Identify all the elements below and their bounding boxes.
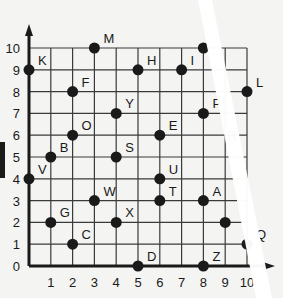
y-tick-label: 4 bbox=[13, 172, 20, 187]
coordinate-grid-diagram: 01234567891012345678910KMFYOBSVWGXCDHILP… bbox=[0, 0, 283, 298]
x-tick-label: 8 bbox=[200, 275, 207, 290]
data-point bbox=[198, 261, 209, 272]
data-point bbox=[133, 261, 144, 272]
y-tick-label: 1 bbox=[13, 237, 20, 252]
point-label: X bbox=[125, 205, 134, 220]
point-label: V bbox=[38, 162, 47, 177]
data-point bbox=[24, 64, 35, 75]
y-tick-label: 6 bbox=[13, 128, 20, 143]
grid-plot: 01234567891012345678910KMFYOBSVWGXCDHILP… bbox=[0, 0, 283, 298]
point-label: E bbox=[169, 118, 178, 133]
data-point bbox=[24, 173, 35, 184]
data-point bbox=[67, 239, 78, 250]
point-label: W bbox=[103, 184, 116, 199]
point-label: K bbox=[38, 53, 47, 68]
data-point bbox=[154, 173, 165, 184]
y-tick-label: 0 bbox=[13, 259, 20, 274]
point-label: I bbox=[191, 53, 195, 68]
x-tick-label: 1 bbox=[47, 275, 54, 290]
y-tick-label: 5 bbox=[13, 150, 20, 165]
y-axis-arrow-icon bbox=[25, 24, 33, 36]
point-label: D bbox=[147, 249, 156, 264]
y-tick-label: 3 bbox=[13, 194, 20, 209]
y-tick-label: 10 bbox=[6, 41, 20, 56]
point-label: B bbox=[60, 140, 69, 155]
data-point bbox=[111, 108, 122, 119]
y-tick-label: 9 bbox=[13, 63, 20, 78]
point-label: L bbox=[256, 75, 263, 90]
x-tick-label: 7 bbox=[178, 275, 185, 290]
point-label: G bbox=[60, 205, 70, 220]
point-label: U bbox=[169, 162, 178, 177]
data-point bbox=[176, 64, 187, 75]
data-point bbox=[242, 86, 253, 97]
data-point bbox=[89, 195, 100, 206]
point-label: T bbox=[169, 184, 177, 199]
data-point bbox=[220, 217, 231, 228]
data-point bbox=[154, 195, 165, 206]
x-tick-label: 2 bbox=[69, 275, 76, 290]
x-tick-label: 9 bbox=[222, 275, 229, 290]
data-point bbox=[154, 130, 165, 141]
point-label: Z bbox=[212, 249, 220, 264]
data-point bbox=[111, 152, 122, 163]
point-label: O bbox=[82, 118, 92, 133]
page-edge-marker bbox=[0, 142, 5, 178]
data-point bbox=[111, 217, 122, 228]
y-tick-label: 7 bbox=[13, 106, 20, 121]
data-point bbox=[133, 64, 144, 75]
point-label: C bbox=[82, 227, 91, 242]
data-point bbox=[198, 108, 209, 119]
data-point bbox=[45, 152, 56, 163]
data-point bbox=[67, 130, 78, 141]
y-tick-label: 8 bbox=[13, 85, 20, 100]
point-label: M bbox=[103, 31, 114, 46]
data-point bbox=[198, 195, 209, 206]
point-label: H bbox=[147, 53, 156, 68]
paper-strip-overlay bbox=[198, 0, 272, 298]
point-label: F bbox=[82, 75, 90, 90]
x-tick-label: 6 bbox=[156, 275, 163, 290]
x-tick-label: 4 bbox=[113, 275, 120, 290]
data-point bbox=[89, 43, 100, 54]
data-point bbox=[67, 86, 78, 97]
point-label: A bbox=[212, 184, 221, 199]
point-label: S bbox=[125, 140, 134, 155]
data-point bbox=[45, 217, 56, 228]
x-tick-label: 5 bbox=[134, 275, 141, 290]
y-tick-label: 2 bbox=[13, 215, 20, 230]
point-label: Y bbox=[125, 96, 134, 111]
x-tick-label: 3 bbox=[91, 275, 98, 290]
